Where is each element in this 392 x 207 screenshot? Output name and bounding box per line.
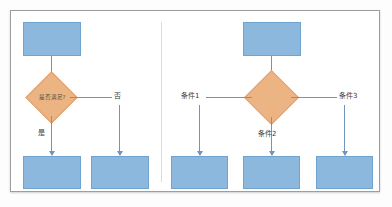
right-branch3-result-box[interactable] [316,156,373,189]
right-branch1-result-box[interactable] [171,156,228,189]
panel-divider [161,22,162,182]
left-no-label: 否 [114,93,121,100]
right-branch1-label: 条件1 [181,93,199,100]
right-branch3-label: 条件3 [339,93,357,100]
right-branch2-label: 条件2 [258,131,276,138]
right-start-box[interactable] [243,22,301,56]
left-no-horizontal-line [70,97,112,98]
left-yes-line [51,116,52,155]
right-branch2-result-box[interactable] [243,156,300,189]
left-yes-result-box[interactable] [23,156,81,189]
figure-canvas: 是否满足? 是 否 条件1 [0,0,392,207]
left-start-box[interactable] [23,22,81,56]
right-branch3-horizontal-line [291,97,337,98]
right-branch1-vertical-line [199,105,200,155]
left-no-result-box[interactable] [91,156,149,189]
left-yes-label: 是 [38,130,45,137]
figure-frame: 是否满足? 是 否 条件1 [10,10,380,192]
right-branch3-vertical-line [344,105,345,155]
right-branch1-horizontal-line [206,97,252,98]
left-no-vertical-line [119,105,120,155]
